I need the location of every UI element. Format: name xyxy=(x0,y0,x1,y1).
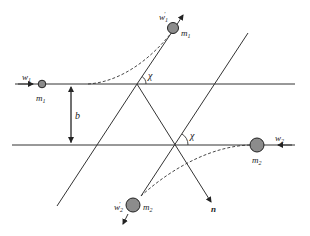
m1-initial-ball xyxy=(38,80,46,88)
chi-arc-bottom xyxy=(182,134,188,145)
b-label: b xyxy=(75,110,80,121)
scattering-diagram: w1 m1 w1' m1 b χ χ w2 m2 w2' m2 n xyxy=(0,0,310,236)
right-slanted-line xyxy=(141,33,248,196)
chi-bottom-label: χ xyxy=(189,130,195,141)
m2-initial-ball xyxy=(250,138,264,152)
m2-initial-label: m2 xyxy=(252,155,262,166)
m1-dashed-trajectory xyxy=(88,32,172,84)
m2-final-ball xyxy=(126,198,140,212)
m2-final-label: m2 xyxy=(143,202,153,213)
n-label: n xyxy=(211,204,216,214)
chi-top-label: χ xyxy=(147,70,153,81)
w1-prime-label: w1' xyxy=(159,11,168,23)
w2-prime-arrow xyxy=(123,214,128,224)
w2-prime-label: w2' xyxy=(114,201,123,213)
m1-final-label: m1 xyxy=(181,28,191,39)
chi-arc-top xyxy=(142,77,146,85)
w1-label: w1 xyxy=(22,72,31,83)
m1-initial-label: m1 xyxy=(36,93,46,104)
w2-label: w2 xyxy=(275,133,284,144)
m1-final-ball xyxy=(168,23,179,34)
